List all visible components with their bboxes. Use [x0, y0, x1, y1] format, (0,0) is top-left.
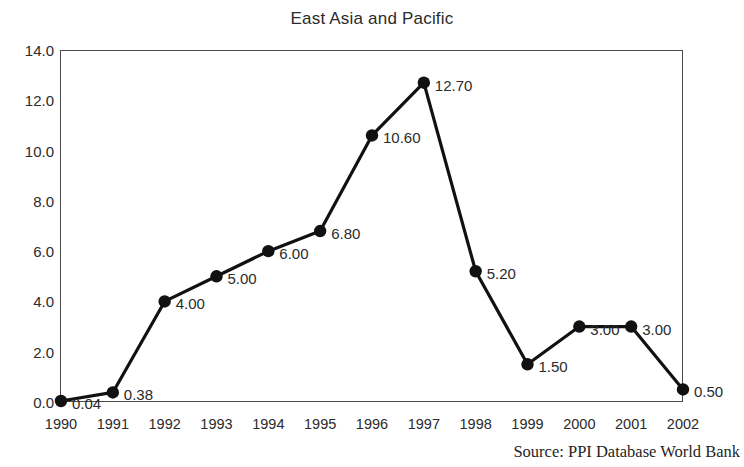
- series-markers: [55, 76, 689, 407]
- data-point-label: 6.80: [331, 225, 360, 242]
- data-point-marker: [573, 320, 585, 332]
- data-point-label: 10.60: [383, 129, 421, 146]
- data-point-marker: [55, 395, 67, 407]
- data-point-marker: [469, 265, 481, 277]
- data-point-marker: [158, 295, 170, 307]
- data-point-marker: [366, 129, 378, 141]
- data-point-marker: [625, 320, 637, 332]
- data-point-marker: [262, 245, 274, 257]
- data-point-label: 3.00: [642, 320, 671, 337]
- data-point-label: 5.00: [228, 270, 257, 287]
- data-point-marker: [107, 386, 119, 398]
- data-point-label: 4.00: [176, 295, 205, 312]
- data-point-marker: [210, 270, 222, 282]
- data-point-label: 3.00: [590, 320, 619, 337]
- data-point-label: 0.38: [124, 386, 153, 403]
- line-series-svg: [0, 0, 744, 467]
- source-note: Source: PPI Database World Bank: [513, 442, 740, 462]
- data-point-label: 5.20: [487, 265, 516, 282]
- chart-container: East Asia and Pacific 0.02.04.06.08.010.…: [0, 0, 744, 467]
- data-point-label: 6.00: [279, 245, 308, 262]
- data-point-marker: [314, 225, 326, 237]
- data-point-label: 0.50: [694, 383, 723, 400]
- data-point-marker: [521, 358, 533, 370]
- data-point-label: 12.70: [435, 76, 473, 93]
- data-point-label: 1.50: [539, 358, 568, 375]
- data-point-marker: [418, 76, 430, 88]
- x-tick-label: 2002: [653, 416, 713, 432]
- data-point-label: 0.04: [72, 394, 101, 411]
- data-point-marker: [677, 383, 689, 395]
